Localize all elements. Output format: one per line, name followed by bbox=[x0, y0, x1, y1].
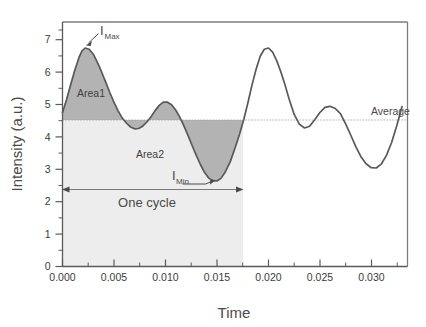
x-tick-label-5: 0.025 bbox=[307, 271, 333, 283]
y-tick-label-4: 4 bbox=[45, 131, 51, 143]
x-tick-label-2: 0.010 bbox=[152, 271, 178, 283]
x-tick-label-1: 0.005 bbox=[101, 271, 127, 283]
y-axis-title: Intensity (a.u.) bbox=[8, 96, 25, 191]
imin-label-subscript: Min bbox=[176, 177, 189, 186]
x-tick-label-0: 0.000 bbox=[49, 271, 75, 283]
imax-label: I bbox=[100, 23, 104, 38]
x-tick-label-6: 0.030 bbox=[358, 271, 384, 283]
y-tick-label-5: 5 bbox=[45, 98, 51, 110]
imax-label-subscript: Max bbox=[105, 32, 120, 41]
y-tick-label-1: 1 bbox=[45, 228, 51, 240]
one-cycle-label: One cycle bbox=[118, 195, 176, 210]
x-tick-label-3: 0.015 bbox=[204, 271, 230, 283]
y-tick-label-6: 6 bbox=[45, 66, 51, 78]
x-axis-title: Time bbox=[218, 304, 251, 321]
chart-figure: 0 1 2 3 4 5 6 7 0.000 0.005 0.010 0.015 … bbox=[0, 0, 426, 327]
x-tick-label-4: 0.020 bbox=[255, 271, 281, 283]
area2-label: Area2 bbox=[136, 148, 164, 160]
average-label: Average bbox=[371, 105, 410, 117]
y-tick-label-7: 7 bbox=[45, 33, 51, 45]
intensity-vs-time-plot: 0 1 2 3 4 5 6 7 0.000 0.005 0.010 0.015 … bbox=[0, 0, 426, 327]
y-tick-label-2: 2 bbox=[45, 195, 51, 207]
y-tick-label-3: 3 bbox=[45, 163, 51, 175]
area1-label: Area1 bbox=[77, 87, 105, 99]
